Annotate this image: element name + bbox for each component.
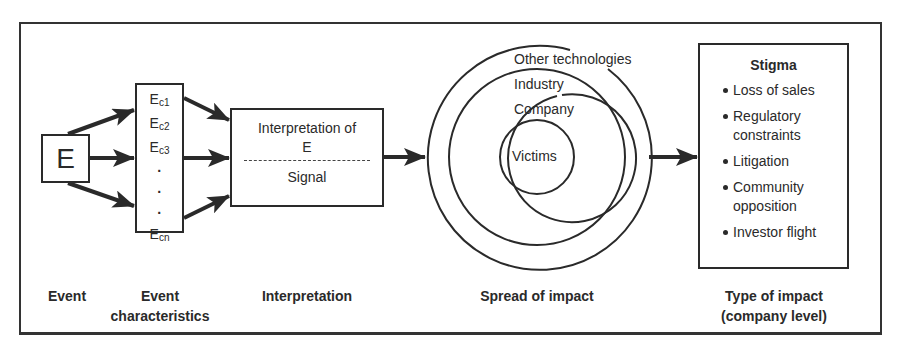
stage-label-event-characteristics: Event characteristics <box>100 286 220 326</box>
arrows-characteristics-to-interpretation <box>184 98 229 218</box>
label-other-technologies: Other technologies <box>514 51 632 67</box>
interpretation-line-2: E <box>232 138 382 157</box>
ellipsis-dot: · <box>137 203 182 224</box>
event-box-label: E <box>56 143 75 175</box>
event-box: E <box>41 134 90 183</box>
characteristic-item: Ec1 <box>137 89 182 113</box>
arrow-icon <box>68 110 134 134</box>
ellipsis-dot: · <box>137 161 182 182</box>
impact-item: Loss of sales <box>723 81 847 100</box>
characteristic-item: Ecn <box>137 224 182 248</box>
stage-label-event: Event <box>40 286 94 306</box>
characteristic-item: Ec2 <box>137 113 182 137</box>
arrow-icon <box>184 98 229 120</box>
label-company: Company <box>514 101 574 117</box>
impact-item: Community opposition <box>723 178 833 216</box>
interpretation-box: Interpretation of E Signal <box>230 108 384 207</box>
impact-list: Loss of sales Regulatory constraints Lit… <box>723 81 847 242</box>
arrow-icon <box>68 183 134 206</box>
label-industry: Industry <box>514 76 564 92</box>
event-characteristics-box: Ec1 Ec2 Ec3 · · · Ecn <box>135 83 184 233</box>
impact-item: Investor flight <box>723 223 847 242</box>
stage-label-type-of-impact: Type of impact (company level) <box>704 286 844 326</box>
stigma-box: Stigma Loss of sales Regulatory constrai… <box>698 43 849 269</box>
interpretation-line-1: Interpretation of <box>232 119 382 138</box>
stage-label-spread-of-impact: Spread of impact <box>467 286 607 306</box>
ellipsis-dot: · <box>137 182 182 203</box>
label-victims: Victims <box>512 148 557 164</box>
impact-item: Regulatory constraints <box>723 107 833 145</box>
stage-label-interpretation: Interpretation <box>247 286 367 306</box>
impact-item: Litigation <box>723 152 847 171</box>
signal-label: Signal <box>232 161 382 185</box>
stigma-title: Stigma <box>700 57 847 73</box>
arrow-icon <box>184 196 229 218</box>
characteristic-item: Ec3 <box>137 137 182 161</box>
